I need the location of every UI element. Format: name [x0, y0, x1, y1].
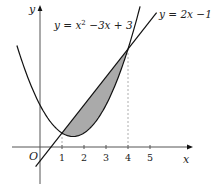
line-curve	[36, 13, 157, 167]
parabola-label: y = x2 −3x + 3	[53, 19, 133, 31]
y-axis-label: y	[28, 3, 36, 16]
x-tick-label: 3	[103, 152, 109, 163]
origin-label: O	[29, 150, 38, 163]
x-tick-label: 5	[147, 152, 153, 163]
x-ticks: 12345	[59, 145, 153, 163]
graph-svg: 12345 y x O y = x2 −3x + 3 y = 2x −1	[0, 0, 211, 188]
x-axis-label: x	[183, 153, 190, 166]
graph-figure: 12345 y x O y = x2 −3x + 3 y = 2x −1	[0, 0, 211, 188]
x-tick-label: 1	[59, 152, 65, 163]
line-label: y = 2x −1	[158, 8, 211, 20]
x-tick-label: 4	[125, 152, 131, 163]
x-tick-label: 2	[81, 152, 87, 163]
